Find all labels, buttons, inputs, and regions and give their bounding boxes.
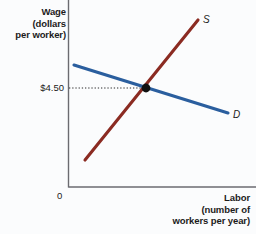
x-axis-title-line-2: (number of xyxy=(146,204,250,216)
demand-curve-label: D xyxy=(233,109,240,120)
y-axis-tick-label-equilibrium-wage: $4.50 xyxy=(40,82,64,93)
y-axis-title-line-2: (dollars xyxy=(15,18,66,30)
supply-curve-label: S xyxy=(203,14,210,25)
demand-curve xyxy=(74,65,228,113)
y-axis-title-line-1: Wage xyxy=(15,6,66,18)
x-axis-title-line-3: workers per year) xyxy=(146,215,250,227)
y-axis-title: Wage (dollars per worker) xyxy=(15,6,66,41)
supply-demand-chart: Wage (dollars per worker) Labor (number … xyxy=(0,0,256,234)
supply-curve xyxy=(85,20,198,160)
y-axis-title-line-3: per worker) xyxy=(15,29,66,41)
x-axis-title: Labor (number of workers per year) xyxy=(146,192,250,227)
origin-label: 0 xyxy=(57,190,62,201)
x-axis-title-line-1: Labor xyxy=(146,192,250,204)
equilibrium-point-marker xyxy=(142,84,151,93)
